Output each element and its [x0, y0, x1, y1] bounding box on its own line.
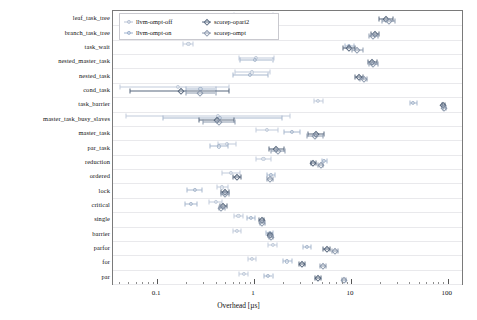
y-axis-label: for: [102, 258, 110, 265]
error-bar-cap: [268, 72, 269, 77]
error-bar-cap: [377, 33, 378, 38]
y-axis-labels: leaf_task_treebranch_task_treetask_waitn…: [0, 10, 110, 285]
y-axis-label: par: [102, 272, 110, 279]
error-bar-cap: [240, 58, 241, 63]
error-bar-cap: [282, 115, 283, 120]
x-tick-minor: [148, 282, 149, 285]
legend-item[interactable]: scorep-opari2: [202, 17, 284, 26]
y-axis-label: nested_master_task: [58, 57, 110, 64]
error-bar-cap: [379, 17, 380, 22]
x-tick-minor: [329, 282, 330, 285]
error-bar-cap: [270, 148, 271, 153]
x-tick-minor: [216, 282, 217, 285]
error-bar-cap: [362, 48, 363, 53]
gridline: [113, 241, 462, 242]
error-bar-cap: [193, 41, 194, 46]
data-point: [253, 58, 257, 62]
legend-label: llvm-ompt-on: [136, 29, 172, 36]
error-bar-cap: [323, 134, 324, 139]
x-tick-minor: [225, 282, 226, 285]
data-point: [360, 76, 366, 82]
legend-label: llvm-ompt-off: [136, 18, 172, 25]
error-bar-cap: [273, 56, 274, 61]
error-bar-cap: [306, 134, 307, 139]
x-tick-minor: [250, 282, 251, 285]
gridline: [113, 97, 462, 98]
error-bar-cap: [232, 72, 233, 77]
x-tick-minor: [336, 282, 337, 285]
error-bar-cap: [130, 89, 131, 94]
x-tick-major: [254, 279, 255, 284]
error-bar-cap: [222, 171, 223, 176]
x-tick-minor: [312, 282, 313, 285]
y-axis-label: reduction: [85, 157, 110, 164]
error-bar-cap: [197, 201, 198, 206]
x-tick-minor: [283, 282, 284, 285]
error-bar-cap: [416, 101, 417, 106]
x-tick-minor: [245, 282, 246, 285]
x-tick-minor: [119, 282, 120, 285]
gridline: [113, 169, 462, 170]
y-axis-label: leaf_task_tree: [73, 14, 110, 21]
error-bar-cap: [299, 130, 300, 135]
error-bar-cap: [377, 62, 378, 67]
error-bar-cap: [228, 144, 229, 149]
error-bar-cap: [201, 187, 202, 192]
x-tick-minor: [438, 282, 439, 285]
data-point: [233, 174, 239, 180]
legend-item[interactable]: llvm-ompt-on: [124, 28, 202, 37]
data-point: [248, 216, 252, 220]
legend-item[interactable]: scorep-ompt: [202, 28, 284, 37]
y-axis-label: lock: [99, 186, 110, 193]
error-bar-cap: [326, 158, 327, 163]
legend-label: scorep-opari2: [214, 18, 249, 25]
error-bar-cap: [187, 187, 188, 192]
error-bar-cap: [268, 242, 269, 247]
error-bar-cap: [283, 259, 284, 264]
data-point: [216, 144, 220, 148]
gridline: [113, 112, 462, 113]
x-tick-minor: [142, 282, 143, 285]
y-axis-label: barrier: [92, 229, 110, 236]
y-axis-label: single: [94, 215, 110, 222]
legend-item[interactable]: llvm-ompt-off: [124, 17, 202, 26]
error-bar-cap: [232, 228, 233, 233]
error-bar-cap: [269, 70, 270, 75]
gridline: [113, 155, 462, 156]
gridline: [113, 270, 462, 271]
error-bar-cap: [235, 142, 236, 147]
gridline: [113, 183, 462, 184]
error-bar-cap: [226, 204, 227, 209]
x-tick-major: [351, 279, 352, 284]
data-point: [193, 187, 197, 191]
x-tick-minor: [153, 282, 154, 285]
data-point: [177, 88, 183, 94]
error-bar-cap: [256, 156, 257, 161]
x-tick-minor: [397, 282, 398, 285]
error-bar-cap: [186, 91, 187, 96]
x-tick-minor: [380, 282, 381, 285]
gridline: [113, 140, 462, 141]
x-tick-label: 1: [251, 289, 255, 297]
plot-area: [112, 10, 463, 285]
gridline: [113, 284, 462, 285]
data-point: [266, 274, 270, 278]
diamond-marker-icon: [202, 17, 211, 26]
circle-marker-icon: [124, 28, 133, 37]
error-bar-cap: [215, 91, 216, 96]
error-bar-cap: [342, 46, 343, 51]
data-point: [250, 257, 254, 261]
data-point: [234, 228, 238, 232]
error-bar-cap: [209, 144, 210, 149]
x-tick-minor: [233, 282, 234, 285]
error-bar: [120, 86, 229, 87]
error-bar-cap: [254, 216, 255, 221]
data-point: [189, 202, 193, 206]
gridline: [113, 198, 462, 199]
y-axis-label: nested_task: [79, 71, 110, 78]
error-bar: [126, 115, 290, 116]
data-point: [248, 72, 252, 76]
data-point: [265, 128, 269, 132]
error-bar-cap: [276, 242, 277, 247]
error-bar-cap: [284, 130, 285, 135]
